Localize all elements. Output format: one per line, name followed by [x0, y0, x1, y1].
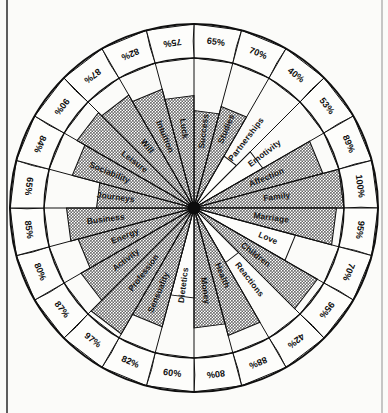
scanned-page: SuccessStudiesPartnershipsEmotivityAffec… [0, 0, 388, 413]
radial-percentage-wheel-chart: SuccessStudiesPartnershipsEmotivityAffec… [0, 0, 388, 413]
wheel-hub [188, 202, 201, 215]
wheel-svg: SuccessStudiesPartnershipsEmotivityAffec… [0, 0, 388, 413]
